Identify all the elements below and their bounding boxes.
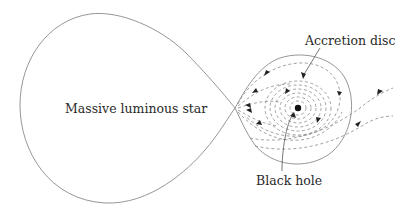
arrow-icon bbox=[377, 89, 383, 95]
arrow-icon bbox=[355, 121, 361, 127]
black-hole-label: Black hole bbox=[256, 175, 322, 188]
arrow-icon bbox=[264, 70, 270, 76]
accretion-disc-label: Accretion disc bbox=[305, 35, 395, 48]
binary-system-diagram: Massive luminous star Accretion disc Bla… bbox=[0, 0, 404, 211]
arrow-icon bbox=[246, 108, 252, 113]
arrow-icon bbox=[337, 91, 342, 96]
arrow-icon bbox=[285, 88, 290, 94]
accretion-disc-pointer bbox=[303, 48, 320, 76]
black-hole-dot bbox=[295, 105, 301, 111]
flow-arrows bbox=[245, 70, 383, 127]
star-label: Massive luminous star bbox=[65, 103, 207, 116]
arrow-icon bbox=[316, 117, 321, 123]
